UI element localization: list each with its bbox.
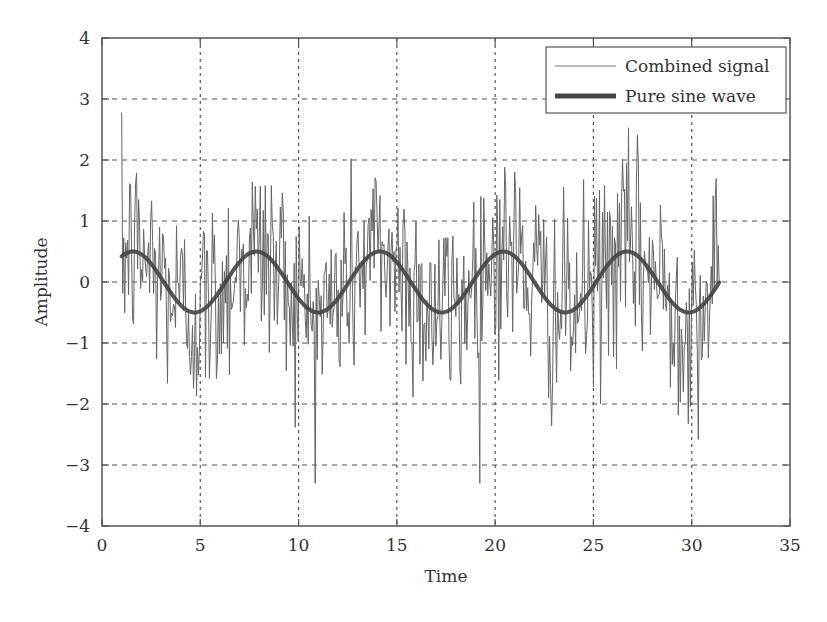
- x-tick-label: 5: [195, 535, 206, 555]
- y-tick-labels: −4−3−2−101234: [65, 28, 90, 536]
- legend-label-combined: Combined signal: [625, 56, 770, 76]
- y-tick-label: 2: [79, 150, 90, 170]
- legend: Combined signal Pure sine wave: [546, 47, 786, 113]
- x-tick-label: 25: [583, 535, 605, 555]
- y-tick-label: −1: [65, 333, 90, 353]
- x-axis-label: Time: [425, 566, 468, 586]
- x-tick-label: 20: [484, 535, 506, 555]
- y-tick-label: 0: [79, 272, 90, 292]
- y-tick-label: −3: [65, 455, 90, 475]
- x-tick-labels: 05101520253035: [97, 535, 801, 555]
- x-tick-label: 30: [681, 535, 703, 555]
- y-axis-label: Amplitude: [31, 238, 51, 328]
- x-tick-label: 35: [779, 535, 801, 555]
- y-tick-label: −4: [65, 516, 90, 536]
- legend-label-sine: Pure sine wave: [625, 86, 756, 106]
- x-tick-label: 10: [288, 535, 310, 555]
- y-tick-label: −2: [65, 394, 90, 414]
- x-tick-label: 15: [386, 535, 408, 555]
- y-tick-label: 4: [79, 28, 90, 48]
- y-tick-label: 1: [79, 211, 90, 231]
- chart: 05101520253035 −4−3−2−101234 Time Amplit…: [0, 0, 827, 622]
- y-tick-label: 3: [79, 89, 90, 109]
- x-tick-label: 0: [97, 535, 108, 555]
